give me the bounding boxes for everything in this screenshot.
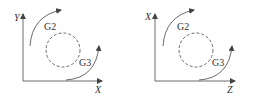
dashed-circle bbox=[179, 33, 213, 67]
g2-label: G2 bbox=[44, 21, 56, 32]
horizontal-axis-label: Z bbox=[227, 84, 233, 95]
circular-interpolation-diagrams: Y X G2 G3 X Z G2 G3 bbox=[0, 0, 266, 100]
vertical-axis-label: Y bbox=[14, 12, 21, 23]
vertical-axis-label: X bbox=[144, 11, 152, 22]
horizontal-axis-label: X bbox=[94, 84, 102, 95]
dashed-circle bbox=[46, 33, 80, 67]
g3-label: G3 bbox=[212, 57, 224, 68]
g3-label: G3 bbox=[79, 57, 91, 68]
g2-label: G2 bbox=[177, 21, 189, 32]
diagram-xy-plane: Y X G2 G3 bbox=[14, 10, 102, 95]
diagram-xz-plane: X Z G2 G3 bbox=[144, 10, 235, 95]
